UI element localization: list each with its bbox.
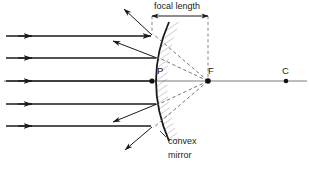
focus-label: F: [208, 66, 214, 76]
point-C-marker: [284, 79, 289, 84]
mirror-label-line1: convex: [168, 137, 197, 146]
reflected-ray-1: [124, 9, 152, 35]
pole-label: P: [157, 66, 163, 76]
mirror-label-line2: mirror: [168, 151, 192, 160]
reflected-ray-2: [113, 41, 157, 58]
reflected-ray-4: [113, 104, 157, 122]
centre-of-curvature-label: C: [282, 66, 289, 76]
reflected-ray-5: [125, 127, 152, 150]
focal-length-label: focal length: [154, 2, 200, 11]
point-F-marker: [205, 78, 211, 84]
ray-diagram-svg: [0, 0, 309, 169]
incident-ray-arrowheads: [18, 36, 32, 126]
ray-diagram-canvas: focal length P F C convex mirror: [0, 0, 309, 169]
point-P-marker: [149, 78, 154, 83]
